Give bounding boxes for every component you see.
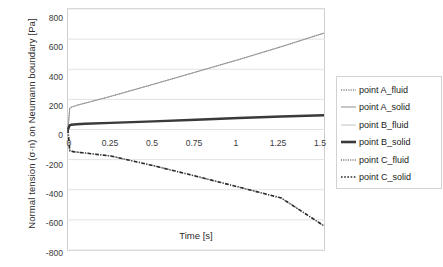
- y-tick-label: 400: [29, 73, 63, 82]
- legend-item[interactable]: point A_solid: [340, 99, 439, 117]
- y-tick-label: -600: [29, 219, 63, 228]
- y-tick-label: 800: [29, 14, 63, 23]
- legend-item-label: point C_solid: [359, 172, 411, 182]
- series-line: [68, 33, 324, 129]
- legend-item[interactable]: point B_solid: [340, 134, 439, 152]
- legend-item[interactable]: point C_fluid: [340, 151, 439, 169]
- series-line: [68, 130, 324, 226]
- legend-swatch-icon: [340, 155, 357, 165]
- legend-swatch-icon: [340, 85, 357, 95]
- plot-area: [67, 8, 325, 251]
- legend-item[interactable]: point A_fluid: [340, 81, 439, 99]
- legend-item[interactable]: point C_solid: [340, 169, 439, 187]
- y-tick-label: 200: [29, 102, 63, 111]
- series-line: [68, 130, 324, 226]
- y-tick-label: -400: [29, 190, 63, 199]
- legend-swatch-icon: [340, 120, 357, 130]
- legend-swatch-icon: [340, 172, 357, 182]
- legend-item-label: point A_fluid: [359, 85, 408, 95]
- legend-item-label: point B_fluid: [359, 120, 409, 130]
- legend-swatch-icon: [340, 137, 357, 147]
- series-line: [68, 115, 324, 129]
- legend-item-label: point B_solid: [359, 137, 411, 147]
- y-tick-label: -800: [29, 249, 63, 258]
- chart-container: Normal tension (σ·n) on Neumann boundary…: [0, 0, 443, 267]
- legend-item-label: point C_fluid: [359, 155, 409, 165]
- legend-item[interactable]: point B_fluid: [340, 116, 439, 134]
- y-tick-label: -200: [29, 161, 63, 170]
- legend-swatch-icon: [340, 102, 357, 112]
- legend: point A_fluid point A_solid point B_flui…: [336, 76, 442, 189]
- y-tick-label: 600: [29, 43, 63, 52]
- series-line: [68, 33, 324, 129]
- legend-item-label: point A_solid: [359, 102, 410, 112]
